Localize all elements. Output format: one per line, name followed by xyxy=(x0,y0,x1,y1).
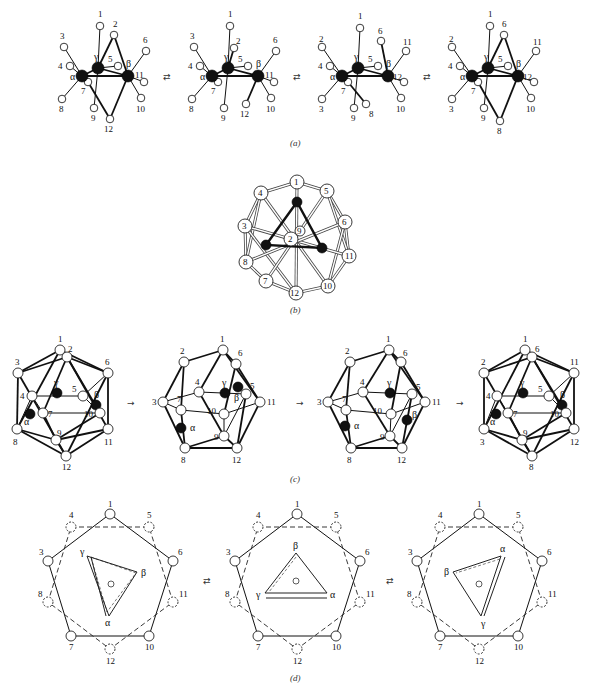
svg-text:6: 6 xyxy=(547,547,552,557)
svg-text:7: 7 xyxy=(342,394,347,404)
svg-text:4: 4 xyxy=(195,377,200,387)
svg-text:6: 6 xyxy=(238,348,243,358)
svg-text:β: β xyxy=(256,58,261,69)
panel-a-structure-1: 1 2 3 4 5 6 7 8 9 10 11 12 α γ β xyxy=(58,9,150,134)
panel-a-structure-3: 1 2 3 4 5 6 7 8 9 10 11 12 α γ β xyxy=(318,11,412,123)
svg-text:7: 7 xyxy=(263,276,268,286)
equilibrium-arrow-a3: ⇄ xyxy=(423,72,431,82)
svg-text:4: 4 xyxy=(188,61,193,71)
metal-alpha xyxy=(76,70,88,82)
svg-text:2: 2 xyxy=(180,346,185,356)
svg-text:α: α xyxy=(330,589,336,600)
svg-text:5: 5 xyxy=(516,510,521,520)
svg-text:1: 1 xyxy=(523,334,528,344)
ligand-12 xyxy=(106,115,114,123)
svg-text:10: 10 xyxy=(373,406,383,416)
svg-text:10: 10 xyxy=(136,104,146,114)
svg-text:9: 9 xyxy=(214,432,219,442)
ligand-10 xyxy=(137,94,145,102)
svg-text:2: 2 xyxy=(113,19,118,29)
svg-text:12: 12 xyxy=(293,656,302,666)
panel-b: 1 2 3 4 5 6 7 8 9 10 11 12 (b) xyxy=(238,175,356,315)
svg-text:1: 1 xyxy=(294,177,299,187)
caption-b: (b) xyxy=(290,305,301,315)
svg-text:β: β xyxy=(94,389,99,400)
svg-text:3: 3 xyxy=(408,547,413,557)
svg-text:3: 3 xyxy=(60,31,65,41)
svg-text:8: 8 xyxy=(347,455,352,465)
panel-a-structure-2: 1 2 3 4 5 6 7 8 9 10 11 12 α γ β xyxy=(188,9,280,123)
svg-text:2: 2 xyxy=(68,344,73,354)
svg-text:2: 2 xyxy=(449,34,454,44)
svg-text:8: 8 xyxy=(181,455,186,465)
svg-text:6: 6 xyxy=(105,357,110,367)
svg-text:12: 12 xyxy=(523,72,532,82)
svg-text:5: 5 xyxy=(334,510,339,520)
svg-text:3: 3 xyxy=(15,357,20,367)
svg-text:3: 3 xyxy=(226,547,231,557)
svg-text:6: 6 xyxy=(378,26,383,36)
svg-text:10: 10 xyxy=(84,409,94,419)
panel-d-structure-3: 1 3 6 7 10 4 5 8 11 12 α β γ xyxy=(407,499,557,666)
ligand-8 xyxy=(58,95,66,103)
forward-arrow-c3: → xyxy=(456,398,464,408)
ligand-3 xyxy=(60,43,68,51)
svg-text:α: α xyxy=(105,617,111,628)
svg-text:2: 2 xyxy=(345,346,350,356)
svg-text:6: 6 xyxy=(342,217,347,227)
svg-text:11: 11 xyxy=(265,70,274,80)
svg-text:α: α xyxy=(190,422,196,433)
svg-text:α: α xyxy=(70,71,76,82)
svg-text:8: 8 xyxy=(497,126,502,136)
ligand-2 xyxy=(110,31,118,39)
panel-a-structure-4: 1 2 3 4 5 6 7 8 9 10 11 12 α γ β xyxy=(448,9,542,136)
svg-text:2: 2 xyxy=(236,36,241,46)
svg-text:4: 4 xyxy=(448,61,453,71)
svg-text:6: 6 xyxy=(365,547,370,557)
svg-text:5: 5 xyxy=(238,54,243,64)
svg-text:12: 12 xyxy=(62,462,71,472)
svg-text:6: 6 xyxy=(502,19,507,29)
metal-gamma xyxy=(92,62,104,74)
svg-text:1: 1 xyxy=(220,334,225,344)
svg-text:5: 5 xyxy=(538,384,543,394)
svg-text:α: α xyxy=(330,71,336,82)
svg-text:12: 12 xyxy=(290,288,299,298)
equilibrium-arrow-a2: ⇄ xyxy=(293,72,301,82)
svg-text:4: 4 xyxy=(360,377,365,387)
caption-a: (a) xyxy=(290,138,301,148)
svg-text:β: β xyxy=(293,540,298,551)
svg-text:4: 4 xyxy=(438,510,443,520)
svg-text:1: 1 xyxy=(228,9,233,19)
svg-text:10: 10 xyxy=(266,104,276,114)
svg-text:8: 8 xyxy=(189,104,194,114)
svg-text:10: 10 xyxy=(332,642,342,652)
svg-text:11: 11 xyxy=(570,357,579,367)
svg-text:10: 10 xyxy=(396,104,406,114)
svg-text:1: 1 xyxy=(295,499,300,509)
svg-text:β: β xyxy=(560,389,565,400)
svg-text:γ: γ xyxy=(480,618,486,629)
svg-text:9: 9 xyxy=(523,428,528,438)
svg-text:5: 5 xyxy=(250,381,255,391)
svg-text:γ: γ xyxy=(53,377,59,388)
svg-text:12: 12 xyxy=(397,455,406,465)
svg-text:10: 10 xyxy=(323,281,333,291)
svg-text:1: 1 xyxy=(358,11,363,21)
svg-text:9: 9 xyxy=(221,113,226,123)
svg-text:α: α xyxy=(500,543,506,554)
svg-text:β: β xyxy=(126,58,131,69)
panel-c: 1 2 3 4 5 6 7 8 9 10 11 12 γ β α → xyxy=(12,334,579,484)
svg-text:11: 11 xyxy=(533,37,542,47)
svg-text:12: 12 xyxy=(570,437,579,447)
panel-d: 1 3 6 7 10 4 5 8 11 12 γ β α ⇄ xyxy=(38,499,557,683)
svg-text:12: 12 xyxy=(232,455,241,465)
svg-text:7: 7 xyxy=(177,394,182,404)
svg-text:γ: γ xyxy=(223,51,229,62)
ligand-9 xyxy=(90,104,98,112)
panel-c-structure-2: 1 2 3 4 5 6 7 8 9 10 11 12 γ β α xyxy=(152,334,276,465)
svg-text:5: 5 xyxy=(72,384,77,394)
svg-text:α: α xyxy=(200,71,206,82)
svg-text:γ: γ xyxy=(353,51,359,62)
svg-text:7: 7 xyxy=(471,86,476,96)
